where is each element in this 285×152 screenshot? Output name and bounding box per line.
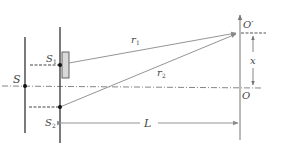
- ray-r1: [69, 33, 236, 63]
- slit1-label: S: [46, 53, 53, 64]
- slit2-label: S: [45, 117, 52, 128]
- path1-subscript: 1: [136, 39, 140, 46]
- displacement-label: x: [250, 55, 256, 66]
- slit1-point: [58, 63, 62, 67]
- source-label: S: [13, 73, 21, 86]
- observation-point-label: O′: [243, 19, 254, 30]
- source-point: [23, 84, 27, 88]
- distance-label: L: [143, 117, 151, 130]
- slit2-point: [58, 105, 62, 109]
- central-axis: [2, 86, 262, 88]
- slit1-subscript: 1: [53, 58, 57, 65]
- thin-plate: [62, 52, 69, 78]
- double-slit-diagram: S S 1 S 2 r 1 r 2 L x O′ O: [0, 0, 285, 152]
- ray-r2: [60, 34, 236, 107]
- center-point-label: O: [242, 90, 250, 101]
- path2-subscript: 2: [162, 72, 166, 79]
- slit2-subscript: 2: [52, 122, 56, 129]
